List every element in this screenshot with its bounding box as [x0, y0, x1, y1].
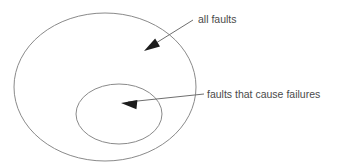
- diagram-canvas: all faults faults that cause failures: [0, 0, 342, 164]
- arrow-head-all-faults-icon: [144, 39, 160, 51]
- inner-set-ellipse-faults-that-cause-failures: [76, 84, 162, 144]
- leader-line-faults-that-cause-failures: [128, 94, 204, 102]
- annotation-label-faults-that-cause-failures: faults that cause failures: [207, 88, 320, 100]
- venn-diagram: all faults faults that cause failures: [0, 0, 342, 164]
- annotation-label-all-faults: all faults: [198, 13, 237, 25]
